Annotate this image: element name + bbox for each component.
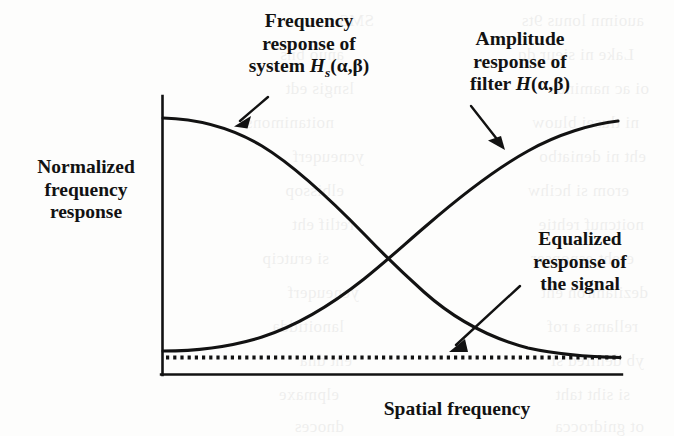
annotation-equalized-line3: the signal — [498, 273, 662, 296]
annotation-system-line2: response of — [214, 33, 404, 56]
figure-container: auoimn lonus 9ts SMS Lake ni sieur dq an… — [0, 0, 674, 436]
annotation-filter-line2: response of — [432, 51, 608, 74]
annotation-filter-args: (α,β) — [531, 73, 570, 94]
annotation-system-response: Frequency response of system Hs(α,β) — [214, 10, 404, 78]
annotation-system-prefix: system — [249, 55, 310, 76]
y-axis-label: Normalized frequency response — [12, 156, 160, 224]
annotation-equalized-response: Equalized response of the signal — [498, 228, 662, 296]
annotation-filter-line1: Amplitude — [432, 28, 608, 51]
annotation-filter-prefix: filter — [470, 73, 516, 94]
annotation-system-line3: system Hs(α,β) — [214, 55, 404, 78]
annotation-system-line1: Frequency — [214, 10, 404, 33]
y-axis-label-line2: frequency — [12, 179, 160, 202]
annotation-filter-symbol: H — [516, 73, 531, 94]
arrow-to-filter-curve — [471, 106, 505, 150]
x-axis-label: Spatial frequency — [352, 398, 562, 421]
y-axis-label-line3: response — [12, 201, 160, 224]
annotation-system-args: (α,β) — [330, 55, 369, 76]
arrow-to-system-curve — [234, 97, 268, 129]
y-axis-label-line1: Normalized — [12, 156, 160, 179]
annotation-system-symbol: H — [310, 55, 325, 76]
annotation-filter-line3: filter H(α,β) — [432, 73, 608, 96]
annotation-equalized-line2: response of — [498, 251, 662, 274]
annotation-filter-response: Amplitude response of filter H(α,β) — [432, 28, 608, 96]
annotation-equalized-line1: Equalized — [498, 228, 662, 251]
